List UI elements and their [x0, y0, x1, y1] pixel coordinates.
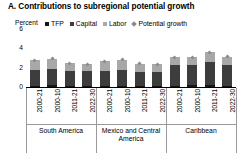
y-axis-tick-label: 6 [19, 26, 23, 33]
group-name-label: Caribbean [166, 126, 236, 152]
x-axis-tick-label: 2000-10 [55, 89, 61, 112]
group-name-label: South America [26, 126, 96, 152]
bar-slot[interactable] [65, 29, 75, 87]
legend-label-tfp: TFP [51, 20, 64, 27]
bar-slot[interactable] [100, 29, 110, 87]
legend-label-labor: Labor [109, 20, 126, 27]
x-axis-tick-label: 2000-21 [177, 89, 183, 112]
bar-slot[interactable] [152, 29, 162, 87]
x-axis-tick-label: 2022-30 [230, 89, 236, 112]
x-label-group: 2000-212000-102011-212022-30 [166, 88, 236, 124]
legend-item-potential-growth: Potential growth [132, 20, 187, 27]
x-label-slot: 2000-21 [170, 88, 180, 124]
group-name-label: Mexico and Central America [96, 126, 166, 152]
x-axis-tick-label: 2011-21 [142, 89, 148, 112]
bar-slot[interactable] [187, 29, 197, 87]
bar-segment-capital [135, 72, 145, 87]
bar-segment-capital [152, 72, 162, 86]
x-axis-labels: 2000-212000-102011-212022-302000-212000-… [26, 88, 236, 124]
x-label-slot: 2022-30 [152, 88, 162, 124]
x-label-slot: 2011-21 [135, 88, 145, 124]
legend-swatch-capital-icon [70, 22, 74, 26]
bar-segment-capital [30, 70, 40, 86]
x-axis-tick-label: 2011-21 [212, 89, 218, 112]
x-label-slot: 2022-30 [82, 88, 92, 124]
x-label-slot: 2000-10 [117, 88, 127, 124]
x-label-group: 2000-212000-102011-212022-30 [96, 88, 166, 124]
plot-area: 0246 [26, 29, 236, 87]
y-axis-tick-label: 2 [19, 64, 23, 71]
bar-slot[interactable] [205, 29, 215, 87]
bar-slot[interactable] [47, 29, 57, 87]
x-label-slot: 2011-21 [205, 88, 215, 124]
bar-slot[interactable] [222, 29, 232, 87]
x-label-slot: 2000-21 [100, 88, 110, 124]
chart-legend: TFP Capital Labor Potential growth [45, 20, 187, 27]
bar-segment-capital [100, 71, 110, 86]
bar-slot[interactable] [170, 29, 180, 87]
x-axis-tick-label: 2000-10 [195, 89, 201, 112]
stacked-bar[interactable] [65, 63, 75, 87]
legend-label-capital: Capital [76, 20, 97, 27]
bar-segment-capital [205, 62, 215, 85]
x-label-group: 2000-212000-102011-212022-30 [26, 88, 96, 124]
y-axis-tick-label: 0 [19, 84, 23, 91]
stacked-bar[interactable] [47, 58, 57, 87]
stacked-bar[interactable] [82, 64, 92, 87]
bar-segment-capital [47, 69, 57, 85]
bar-slot[interactable] [82, 29, 92, 87]
x-axis-tick-label: 2000-10 [125, 89, 131, 112]
bar-group [26, 29, 96, 87]
x-axis-tick-label: 2000-21 [37, 89, 43, 112]
legend-item-capital: Capital [70, 20, 97, 27]
bar-groups [26, 29, 236, 87]
legend-swatch-tfp-icon [45, 22, 49, 26]
page-title: A. Contributions to subregional potentia… [8, 2, 194, 11]
bar-group [166, 29, 236, 87]
bar-segment-capital [82, 71, 92, 86]
x-axis-tick-label: 2011-21 [72, 89, 78, 112]
bar-segment-capital [222, 65, 232, 86]
bar-slot[interactable] [117, 29, 127, 87]
group-band-divider [26, 124, 236, 125]
x-label-slot: 2000-10 [47, 88, 57, 124]
stacked-bar[interactable] [187, 57, 197, 87]
bar-slot[interactable] [30, 29, 40, 87]
bar-segment-capital [187, 65, 197, 85]
y-axis-tick-label: 4 [19, 45, 23, 52]
x-label-slot: 2011-21 [65, 88, 75, 124]
bar-group [96, 29, 166, 87]
legend-swatch-labor-icon [103, 22, 107, 26]
x-axis-tick-label: 2000-21 [107, 89, 113, 112]
bar-segment-capital [170, 65, 180, 85]
legend-item-labor: Labor [103, 20, 126, 27]
stacked-bar[interactable] [205, 52, 215, 87]
stacked-bar[interactable] [222, 57, 232, 87]
stacked-bar[interactable] [170, 57, 180, 87]
bar-segment-capital [65, 71, 75, 86]
stacked-bar[interactable] [152, 64, 162, 87]
stacked-bar[interactable] [117, 60, 127, 87]
legend-swatch-potential-growth-icon [132, 21, 138, 27]
bar-segment-capital [117, 70, 127, 86]
x-label-slot: 2022-30 [222, 88, 232, 124]
stacked-bar[interactable] [100, 61, 110, 87]
legend-item-tfp: TFP [45, 20, 64, 27]
stacked-bar[interactable] [135, 64, 145, 87]
bar-slot[interactable] [135, 29, 145, 87]
group-name-band: South AmericaMexico and Central AmericaC… [26, 126, 236, 152]
stacked-bar[interactable] [30, 60, 40, 87]
x-label-slot: 2000-21 [30, 88, 40, 124]
legend-label-potential-growth: Potential growth [138, 20, 187, 27]
x-label-slot: 2000-10 [187, 88, 197, 124]
